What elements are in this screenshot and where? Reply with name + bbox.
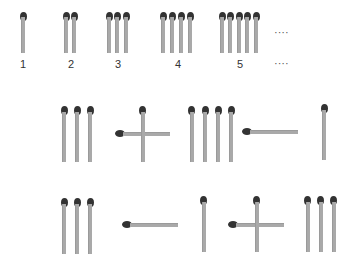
match-stick xyxy=(255,202,259,252)
match-stick xyxy=(203,112,207,162)
match-stick xyxy=(88,204,92,254)
match-stick xyxy=(62,204,66,254)
match-stick xyxy=(130,223,178,227)
match-stick xyxy=(220,17,224,53)
label-2: 2 xyxy=(68,58,74,70)
match-stick xyxy=(75,112,79,162)
match-stick xyxy=(124,17,128,53)
match-stick xyxy=(254,17,258,53)
match-stick xyxy=(62,112,66,162)
match-stick xyxy=(72,17,76,53)
match-stick xyxy=(141,112,145,162)
match-stick xyxy=(21,17,25,53)
match-stick xyxy=(123,132,170,136)
match-stick xyxy=(216,112,220,162)
match-stick xyxy=(228,17,232,53)
label-1: 1 xyxy=(20,58,26,70)
match-stick xyxy=(237,17,241,53)
match-stick xyxy=(190,112,194,162)
ellipsis-top: ···· xyxy=(274,26,289,38)
match-stick xyxy=(179,17,183,53)
match-stick xyxy=(161,17,165,53)
match-stick xyxy=(107,17,111,53)
match-stick xyxy=(75,204,79,254)
match-stick xyxy=(245,17,249,53)
label-4: 4 xyxy=(175,58,181,70)
label-5: 5 xyxy=(237,58,243,70)
match-stick xyxy=(236,223,284,227)
match-stick xyxy=(202,202,206,252)
ellipsis-bottom: ···· xyxy=(274,57,289,69)
match-stick xyxy=(88,112,92,162)
match-stick xyxy=(332,202,336,252)
match-stick xyxy=(188,17,192,53)
match-stick xyxy=(250,130,298,134)
label-3: 3 xyxy=(115,58,121,70)
match-stick xyxy=(306,202,310,252)
match-stick xyxy=(170,17,174,53)
match-stick xyxy=(115,17,119,53)
match-stick xyxy=(64,17,68,53)
match-stick xyxy=(322,110,326,160)
match-stick xyxy=(319,202,323,252)
match-stick xyxy=(229,112,233,162)
